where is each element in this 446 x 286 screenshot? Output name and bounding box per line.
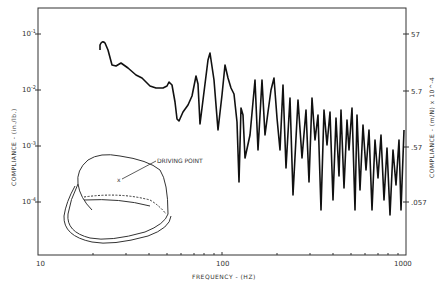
x-tick-label: 100 (216, 260, 229, 268)
right-y-tick-label: .57 (411, 144, 422, 152)
right-y-tick-label: 57 (411, 31, 420, 39)
y-tick-label: 10-3 (22, 140, 36, 150)
right-y-axis-title: COMPLIANCE - (m/N) x 10^-4 (428, 77, 435, 178)
y-tick-label: 10-4 (22, 196, 36, 206)
right-y-tick-labels: 57 5.7 .57 .057 (411, 31, 427, 207)
right-y-tick-label: 5.7 (411, 88, 422, 96)
x-tick-labels: 10 100 1000 (36, 260, 412, 268)
compliance-curve (100, 42, 404, 215)
x-tick-label: 10 (36, 260, 45, 268)
left-y-tick-labels: 10-1 10-2 10-3 10-4 (22, 28, 36, 206)
inset-shell-drawing (64, 155, 171, 243)
x-tick-label: 1000 (394, 260, 412, 268)
driving-point-marker: x (117, 176, 121, 183)
y-tick-label: 10-1 (22, 28, 36, 38)
driving-point-label: DRIVING POINT (157, 157, 203, 164)
chart: 10-1 10-2 10-3 10-4 57 5.7 .57 .057 (0, 0, 446, 286)
right-y-tick-label: .057 (411, 199, 427, 207)
left-y-axis-title: COMPLIANCE - (in./lb.) (10, 108, 17, 186)
driving-point-arrow (122, 161, 156, 179)
x-axis-title: FREQUENCY - (HZ) (192, 273, 256, 280)
y-tick-label: 10-2 (22, 84, 36, 94)
